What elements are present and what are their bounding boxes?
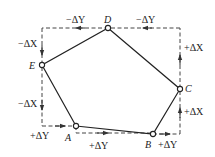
station-d-marker	[105, 25, 110, 30]
station-label-d: D	[103, 14, 112, 25]
label-left-upper: −ΔX	[18, 38, 38, 49]
label-left-lower: −ΔX	[18, 98, 38, 109]
label-bottom-left: +ΔY	[30, 130, 49, 141]
station-label-b: B	[145, 139, 151, 150]
station-a-marker	[73, 123, 78, 128]
traverse-polygon	[42, 28, 180, 134]
label-bottom-middle: +ΔY	[89, 140, 108, 151]
station-b-marker	[150, 131, 155, 136]
station-label-e: E	[28, 60, 35, 71]
station-label-a: A	[64, 132, 72, 143]
label-top-left: −ΔY	[66, 14, 85, 25]
station-e-marker	[39, 62, 44, 67]
direction-arrows	[42, 28, 180, 134]
label-right-upper: +ΔX	[184, 42, 204, 53]
station-c-marker	[177, 86, 182, 91]
dashed-increment-path	[42, 28, 180, 134]
station-label-c: C	[185, 83, 192, 94]
traverse-diagram: A B C D E −ΔY −ΔY −ΔX −ΔX +ΔY +ΔY +ΔY +Δ…	[0, 0, 215, 157]
label-right-lower: +ΔX	[184, 106, 204, 117]
label-top-right: −ΔY	[136, 14, 155, 25]
label-bottom-right: +ΔY	[158, 139, 177, 150]
